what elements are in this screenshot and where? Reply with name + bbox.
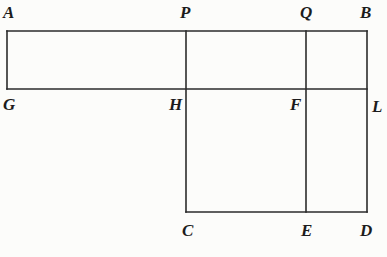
vertex-label-Q: Q — [300, 4, 312, 21]
vertex-label-A: A — [3, 4, 14, 21]
figure-canvas — [0, 0, 387, 257]
vertex-label-L: L — [372, 98, 382, 115]
segment-group — [7, 31, 367, 212]
vertex-label-C: C — [182, 222, 193, 239]
vertex-label-D: D — [360, 222, 372, 239]
vertex-label-H: H — [169, 96, 182, 113]
vertex-label-E: E — [301, 222, 312, 239]
geometry-figure: A P Q B G H F L C E D — [0, 0, 387, 257]
vertex-label-F: F — [290, 96, 301, 113]
vertex-label-B: B — [360, 4, 371, 21]
vertex-label-P: P — [180, 4, 190, 21]
vertex-label-G: G — [3, 96, 15, 113]
